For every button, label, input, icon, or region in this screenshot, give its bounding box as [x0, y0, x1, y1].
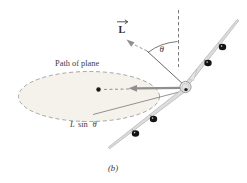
- path-center-dot: [96, 87, 100, 91]
- engine: [204, 60, 211, 67]
- l-vector-solid-segment: [147, 51, 184, 85]
- physics-figure-banked-airplane: Path of plane L θ L sin θ (b): [0, 0, 247, 183]
- l-vector-label-group: L: [117, 20, 128, 35]
- engine: [132, 130, 139, 137]
- l-sin-theta-label: L sin θ: [69, 120, 97, 129]
- l-sin-theta-label-theta: θ: [93, 120, 97, 129]
- theta-label: θ: [160, 44, 165, 54]
- nose-dot: [184, 88, 187, 91]
- l-vector-arrowhead: [127, 40, 135, 47]
- engine: [150, 116, 157, 123]
- l-vector-label: L: [119, 24, 126, 35]
- l-sin-theta-label-l: L: [69, 120, 75, 129]
- figure-canvas: Path of plane L θ L sin θ (b): [0, 0, 247, 183]
- l-vector-dashed-segment: [133, 44, 148, 51]
- l-sin-theta-label-sin: sin: [78, 120, 89, 129]
- path-of-plane-label: Path of plane: [55, 59, 99, 68]
- figure-caption: (b): [108, 163, 118, 173]
- path-ellipse: [19, 72, 160, 122]
- engine: [219, 44, 226, 51]
- l-sin-theta-shaft: [136, 88, 184, 89]
